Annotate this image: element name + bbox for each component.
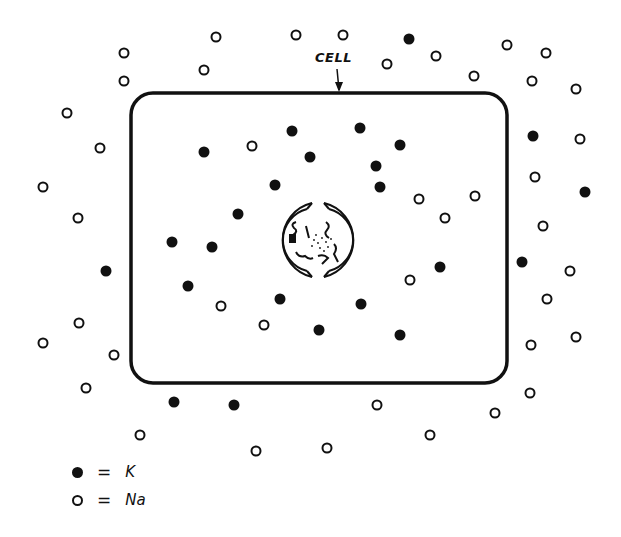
na-ion-outside bbox=[576, 135, 585, 144]
k-ion-outside bbox=[229, 400, 240, 411]
cell-membrane bbox=[131, 93, 507, 383]
na-ion-outside bbox=[383, 60, 392, 69]
k-ion-outside bbox=[169, 397, 180, 408]
na-ion-inside bbox=[406, 276, 415, 285]
na-ion-outside bbox=[531, 173, 540, 182]
na-ion-outside bbox=[75, 319, 84, 328]
na-ion-outside bbox=[39, 339, 48, 348]
nucleus bbox=[283, 203, 354, 277]
legend-na: = Na bbox=[72, 490, 146, 510]
na-ion-outside bbox=[528, 77, 537, 86]
k-ion-inside bbox=[435, 262, 446, 273]
na-ion-outside bbox=[200, 66, 209, 75]
na-ion-outside bbox=[136, 431, 145, 440]
k-ion-inside bbox=[167, 237, 178, 248]
na-ion-outside bbox=[527, 341, 536, 350]
k-ion-inside bbox=[275, 294, 286, 305]
legend-na-label: Na bbox=[125, 491, 145, 509]
na-ion-inside bbox=[260, 321, 269, 330]
na-ion-inside bbox=[415, 195, 424, 204]
cell-label-arrow bbox=[335, 69, 343, 92]
na-ion-outside bbox=[491, 409, 500, 418]
k-ion-outside bbox=[101, 266, 112, 277]
k-ion-inside bbox=[305, 152, 316, 163]
na-ion-outside bbox=[74, 214, 83, 223]
na-ion-outside bbox=[432, 52, 441, 61]
k-ion-outside bbox=[517, 257, 528, 268]
na-ion-outside bbox=[96, 144, 105, 153]
cell-label: CELL bbox=[315, 50, 352, 65]
na-ion-outside bbox=[572, 85, 581, 94]
na-ion-outside bbox=[426, 431, 435, 440]
k-ion-inside bbox=[395, 330, 406, 341]
na-ion-inside bbox=[471, 192, 480, 201]
na-ion-outside bbox=[526, 389, 535, 398]
k-ion-outside bbox=[528, 131, 539, 142]
k-ion-inside bbox=[270, 180, 281, 191]
k-ion-inside bbox=[355, 123, 366, 134]
na-ion-outside bbox=[503, 41, 512, 50]
k-ion-outside bbox=[580, 187, 591, 198]
k-ion-outside bbox=[404, 34, 415, 45]
k-ion-inside bbox=[199, 147, 210, 158]
legend-equals: = bbox=[97, 490, 111, 510]
k-ion-icon bbox=[72, 467, 83, 478]
na-ion-outside bbox=[292, 31, 301, 40]
na-ion-outside bbox=[542, 49, 551, 58]
na-ion-outside bbox=[566, 267, 575, 276]
legend-k: = K bbox=[72, 462, 135, 482]
na-ion-outside bbox=[39, 183, 48, 192]
na-ion-inside bbox=[441, 214, 450, 223]
k-ion-inside bbox=[207, 242, 218, 253]
na-ion-outside bbox=[82, 384, 91, 393]
na-ion-outside bbox=[212, 33, 221, 42]
na-ion-icon bbox=[72, 495, 83, 506]
k-ion-inside bbox=[375, 182, 386, 193]
na-ion-outside bbox=[323, 444, 332, 453]
na-ion-outside bbox=[572, 333, 581, 342]
legend-equals: = bbox=[97, 462, 111, 482]
k-ion-inside bbox=[356, 299, 367, 310]
na-ion-outside bbox=[539, 222, 548, 231]
k-ion-inside bbox=[395, 140, 406, 151]
na-ion-outside bbox=[470, 72, 479, 81]
chromatin bbox=[290, 222, 338, 264]
na-ion-outside bbox=[543, 295, 552, 304]
na-ion-outside bbox=[252, 447, 261, 456]
legend-k-label: K bbox=[125, 463, 135, 481]
na-ion-outside bbox=[120, 77, 129, 86]
na-ion-outside bbox=[63, 109, 72, 118]
na-ion-outside bbox=[120, 49, 129, 58]
na-ion-outside bbox=[110, 351, 119, 360]
na-ion-outside bbox=[339, 31, 348, 40]
k-ion-inside bbox=[314, 325, 325, 336]
k-ion-inside bbox=[233, 209, 244, 220]
k-ion-inside bbox=[183, 281, 194, 292]
na-ion-outside bbox=[373, 401, 382, 410]
cell-diagram bbox=[0, 0, 621, 537]
na-ion-inside bbox=[217, 302, 226, 311]
k-ion-inside bbox=[287, 126, 298, 137]
na-ion-inside bbox=[248, 142, 257, 151]
k-ion-inside bbox=[371, 161, 382, 172]
